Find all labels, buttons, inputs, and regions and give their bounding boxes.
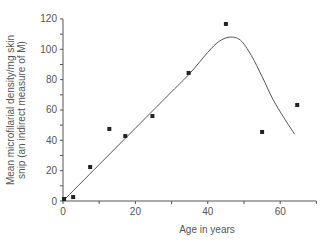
data-point-marker: [260, 130, 264, 134]
data-points: [62, 22, 299, 201]
y-axis-title: Mean microfilarial density/mg skinsnip (…: [5, 35, 27, 185]
data-point-marker: [295, 103, 299, 107]
x-tick-label: 20: [130, 206, 142, 217]
curve-path: [63, 37, 295, 201]
y-tick-label: 60: [46, 104, 58, 115]
data-point-marker: [224, 22, 228, 26]
y-axis-title-line: Mean microfilarial density/mg skin: [5, 35, 16, 185]
x-tick-label: 40: [202, 206, 214, 217]
data-point-marker: [150, 114, 154, 118]
data-point-marker: [62, 197, 66, 201]
scatter-chart: Mean microfilarial density/mg skinsnip (…: [0, 0, 328, 248]
data-point-marker: [88, 165, 92, 169]
x-tick-label: 60: [275, 206, 287, 217]
data-point-marker: [71, 195, 75, 199]
y-tick-label: 120: [40, 13, 57, 24]
y-tick-label: 100: [40, 44, 57, 55]
data-point-marker: [187, 71, 191, 75]
data-point-marker: [107, 127, 111, 131]
y-tick-label: 40: [46, 135, 58, 146]
fitted-curve: [63, 37, 295, 201]
y-tick-label: 20: [46, 165, 58, 176]
y-axis-title-line: snip (an indirect measure of M): [16, 41, 27, 179]
y-tick-label: 0: [51, 196, 57, 207]
x-axis-title: Age in years: [179, 224, 235, 235]
x-tick-label: 0: [60, 206, 66, 217]
data-point-marker: [123, 134, 127, 138]
axes: 0204060801001200204060: [40, 13, 316, 217]
y-tick-label: 80: [46, 74, 58, 85]
